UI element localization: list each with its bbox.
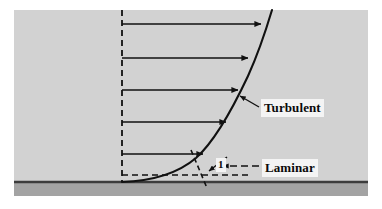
slope-unit-label: 1 xyxy=(216,158,226,172)
turbulent-label: Turbulent xyxy=(261,99,324,117)
laminar-label: Laminar xyxy=(262,159,318,177)
figure-canvas xyxy=(0,0,382,209)
wall-band xyxy=(14,183,368,196)
boundary-layer-figure: Turbulent Laminar 1 xyxy=(0,0,382,209)
